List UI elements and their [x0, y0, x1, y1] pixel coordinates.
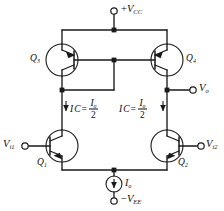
ic-left-denominator: 2: [91, 110, 96, 120]
label-q3: Q3: [30, 54, 40, 64]
q3-subscript: 3: [37, 58, 40, 64]
q3-name: Q: [30, 53, 37, 63]
schematic-figure: +VCC −VEE Q3 Q4 Q1 Q2 Vi1 Vi2 Vo Io IC =…: [0, 0, 224, 211]
q1-subscript: 1: [44, 162, 47, 168]
label-input-right: Vi2: [206, 139, 217, 150]
q4-subscript: 4: [193, 58, 196, 64]
junction-tail: [112, 168, 117, 173]
terminal-vout: [190, 87, 196, 93]
ic-left-symbol-sub: C: [74, 105, 80, 115]
ic-right-symbol-sub: C: [123, 105, 129, 115]
junction-vcc: [112, 28, 117, 33]
q1-collector-slant: [50, 136, 62, 141]
label-output: Vo: [199, 83, 209, 94]
ic-left-fraction: Io 2: [89, 99, 98, 120]
vi2-subscript: i2: [212, 143, 217, 150]
q2-subscript: 2: [185, 162, 188, 168]
label-q2: Q2: [178, 158, 188, 168]
annotation-collector-current-right: IC = Io 2: [119, 99, 147, 120]
junction-left-collector: [60, 88, 65, 93]
ic-left-symbol: I: [70, 105, 73, 115]
label-vcc: +VCC: [121, 4, 142, 15]
q1-name: Q: [37, 157, 44, 167]
ic-right-equals: =: [131, 105, 136, 115]
ic-right-numerator: Io: [138, 99, 147, 110]
junction-mirror-base: [112, 58, 117, 63]
q4-collector-slant: [155, 65, 167, 70]
ic-right-fraction: Io 2: [138, 99, 147, 120]
terminals: [22, 8, 204, 204]
vcc-subscript: CC: [133, 8, 142, 15]
label-q4: Q4: [186, 54, 196, 64]
vo-subscript: o: [205, 87, 208, 94]
vi1-subscript: i1: [9, 143, 14, 150]
q2-collector-slant: [167, 136, 179, 141]
label-q1: Q1: [37, 158, 47, 168]
terminal-vin2: [198, 143, 204, 149]
q4-name: Q: [186, 53, 193, 63]
label-current-source: Io: [125, 178, 131, 188]
terminal-vee: [111, 198, 117, 204]
io-subscript: o: [128, 182, 131, 189]
terminal-vin1: [22, 143, 28, 149]
q3-collector-slant: [62, 65, 74, 70]
circuit-schematic-canvas: [0, 0, 224, 211]
label-input-left: Vi1: [3, 139, 14, 150]
vee-subscript: EE: [133, 198, 141, 205]
ic-right-denominator: 2: [140, 110, 145, 120]
q2-name: Q: [178, 157, 185, 167]
ic-right-symbol: I: [119, 105, 122, 115]
q1-emitter-arrow: [54, 153, 63, 160]
annotation-collector-current-left: IC = Io 2: [70, 99, 98, 120]
ic-left-equals: =: [82, 105, 87, 115]
q2-emitter-arrow: [167, 153, 176, 160]
label-vee: −VEE: [121, 194, 141, 205]
terminal-vcc: [111, 8, 117, 14]
ic-left-numerator: Io: [89, 99, 98, 110]
junction-output: [165, 88, 170, 93]
